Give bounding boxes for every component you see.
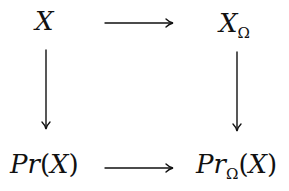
arrows-layer [0,0,289,191]
arrow-right-icon [105,164,173,172]
arrow-down-icon [233,52,241,131]
arrow-right-icon [105,19,173,27]
arrow-down-icon [42,50,50,129]
